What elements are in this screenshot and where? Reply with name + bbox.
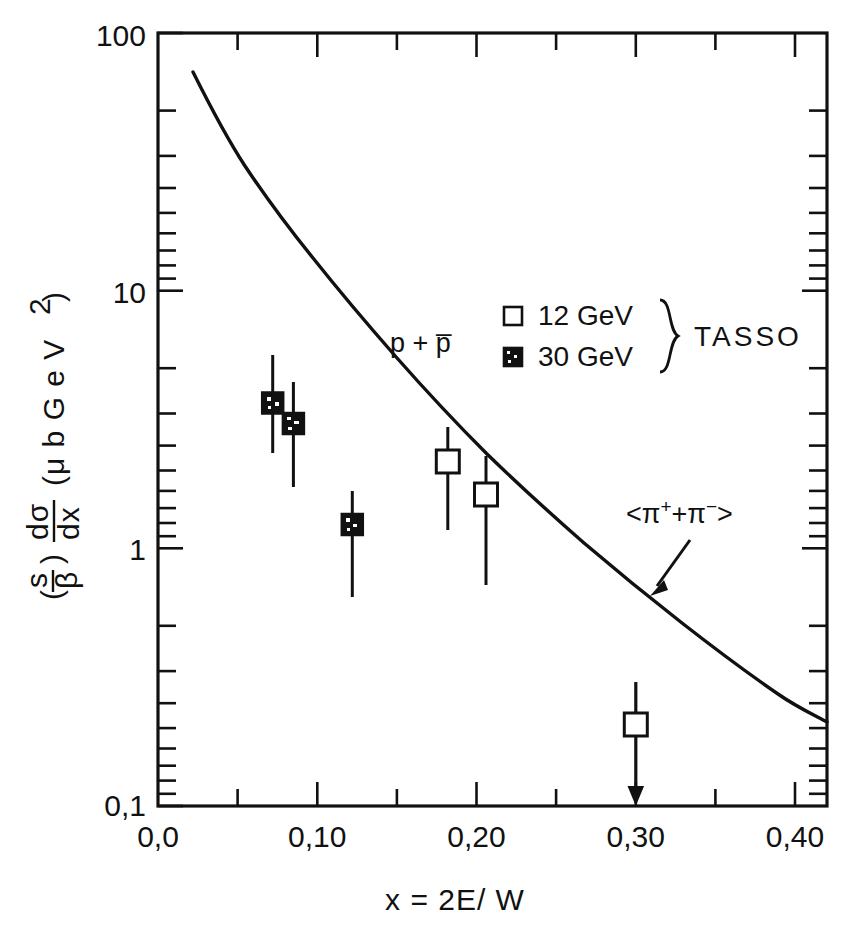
- legend: 12 GeV 30 GeV TASSO: [504, 300, 802, 372]
- y-title-dx: dx: [52, 506, 85, 540]
- pion-average-annotation: <π++π−>: [626, 496, 733, 596]
- y-tick-label-100: 100: [96, 19, 146, 52]
- y-tick-label-0-1: 0,1: [104, 789, 146, 822]
- y-title-units: (μ b G e V: [37, 339, 70, 486]
- legend-label-12gev: 12 GeV: [538, 300, 633, 331]
- pion-bracket-open: <: [626, 499, 642, 529]
- legend-marker-filled-square: [504, 348, 522, 366]
- x-tick-label-0-20: 0,20: [447, 820, 505, 853]
- figure-container: 100 10 1 0,1 0,0 0,10 0,20 0,30 0,40 x =…: [0, 0, 863, 938]
- series-12gev: [436, 427, 647, 806]
- data-point: [283, 382, 304, 487]
- pion-bracket-close: >: [717, 499, 733, 529]
- data-point: [342, 491, 363, 597]
- x-axis-ticks: [238, 33, 795, 806]
- series-30gev: [262, 355, 363, 597]
- pion-symbol-1: π: [642, 499, 661, 529]
- y-axis-ticks: [158, 33, 183, 806]
- legend-brand-label: TASSO: [694, 321, 802, 352]
- y-axis-right-ticks: [802, 111, 827, 794]
- data-point: [475, 456, 498, 585]
- y-title-frac-numerator: s: [20, 572, 53, 588]
- proton-antiproton-text: p + p̅: [390, 328, 452, 358]
- y-tick-label-10: 10: [113, 276, 146, 309]
- x-axis-title: x = 2E/ W: [385, 883, 525, 916]
- y-title-dsigma: dσ: [21, 503, 54, 540]
- y-tick-label-1: 1: [129, 533, 146, 566]
- pion-symbol-2: π: [687, 499, 706, 529]
- x-tick-label-0-0: 0,0: [137, 820, 179, 853]
- pion-model-curve: [193, 72, 827, 722]
- x-tick-label-0-10: 0,10: [288, 820, 346, 853]
- legend-brace: [660, 300, 678, 372]
- pion-plus-sign: +: [672, 499, 688, 529]
- y-title-units-paren-close: ): [37, 291, 70, 302]
- legend-label-30gev: 30 GeV: [538, 341, 633, 372]
- legend-marker-open-square: [504, 307, 522, 325]
- x-tick-label-0-40: 0,40: [766, 820, 824, 853]
- pion-average-text: <π++π−>: [626, 496, 733, 529]
- y-title-frac-denominator: β: [50, 571, 83, 589]
- y-title-paren-open: (: [35, 589, 68, 600]
- pion-superscript-plus: +: [660, 496, 671, 517]
- data-point: [262, 355, 283, 453]
- plot-svg: 100 10 1 0,1 0,0 0,10 0,20 0,30 0,40 x =…: [0, 0, 863, 938]
- proton-antiproton-label: p + p̅: [390, 328, 452, 358]
- y-axis-title: ( s β ) dσ dx (μ b G e V 2 ): [20, 291, 85, 600]
- data-point-upper-limit: [624, 682, 647, 806]
- y-title-paren-close: ): [35, 553, 68, 564]
- x-tick-label-0-30: 0,30: [607, 820, 665, 853]
- plot-frame: [158, 33, 827, 806]
- pion-superscript-minus: −: [706, 496, 717, 517]
- data-point: [436, 427, 459, 530]
- pion-annotation-arrow-line: [657, 540, 690, 586]
